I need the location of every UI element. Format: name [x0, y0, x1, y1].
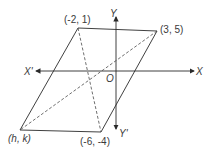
diagonal-1 — [78, 28, 101, 132]
label-origin: O — [106, 73, 114, 84]
label-top-right: (3, 5) — [160, 24, 183, 35]
label-x-negative: X' — [23, 66, 34, 77]
label-x-positive: X — [195, 66, 203, 77]
label-bottom-right: (-6, -4) — [80, 136, 110, 147]
label-bottom-left: (h, k) — [8, 133, 31, 144]
diagram-canvas: (-2, 1) (3, 5) (-6, -4) (h, k) X X' Y Y'… — [0, 0, 206, 154]
label-y-negative: Y' — [119, 128, 129, 139]
label-top-left: (-2, 1) — [64, 14, 91, 25]
parallelogram — [20, 28, 157, 132]
diagonal-2 — [20, 31, 157, 130]
label-y-positive: Y — [110, 8, 118, 19]
